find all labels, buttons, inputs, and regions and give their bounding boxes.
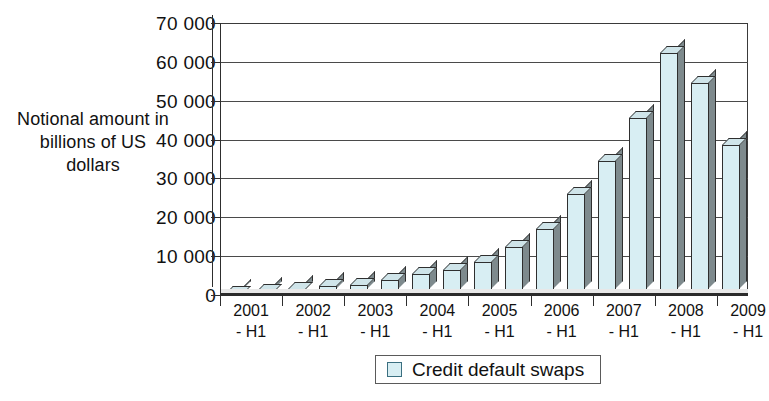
bar-side-face (430, 260, 437, 288)
bar-front-face (598, 161, 616, 295)
bar-side-face (647, 104, 654, 288)
bar-top-face (319, 279, 344, 286)
plot-border-right (747, 23, 748, 295)
x-axis-tick-label: 2002- H1 (278, 300, 348, 342)
bar (722, 145, 740, 295)
x-axis-tick-label-half: - H1 (278, 321, 348, 342)
x-axis-tick-label-year: 2007 (606, 302, 642, 319)
bar (660, 53, 678, 295)
x-axis-tick-label-half: - H1 (713, 321, 769, 342)
x-axis-tick-label: 2005- H1 (465, 300, 535, 342)
x-axis-tick-label: 2003- H1 (340, 300, 410, 342)
bar-chart: Notional amount in billions of US dollar… (0, 0, 769, 401)
x-axis-tick-label-half: - H1 (651, 321, 721, 342)
y-axis-tick (211, 295, 220, 296)
x-axis-tick-label-half: - H1 (402, 321, 472, 342)
y-axis-line (220, 23, 221, 295)
y-axis-tick-label: 70 000 (120, 14, 216, 33)
bar-front-face (536, 229, 554, 295)
bar-front-face (691, 83, 709, 295)
x-axis-tick-label-year: 2003 (357, 302, 393, 319)
bar (629, 118, 647, 295)
x-axis-tick-label-half: - H1 (527, 321, 597, 342)
x-axis-tick-label-year: 2001 (233, 302, 269, 319)
x-axis-tick-label-year: 2002 (295, 302, 331, 319)
legend-label-credit-default-swaps: Credit default swaps (412, 360, 584, 379)
plot-area (220, 23, 748, 295)
x-axis-tick-label-year: 2008 (668, 302, 704, 319)
y-axis-tick-labels: 010 00020 00030 00040 00050 00060 00070 … (120, 0, 216, 401)
x-axis-tick-labels: 2001- H12002- H12003- H12004- H12005- H1… (220, 300, 748, 348)
bar-front-face (722, 145, 740, 295)
x-axis-tick-label-year: 2009 (730, 302, 766, 319)
bar-front-face (567, 194, 585, 295)
x-axis-tick-label: 2006- H1 (527, 300, 597, 342)
y-axis-back-line (212, 15, 213, 287)
bar (691, 83, 709, 295)
x-axis-tick-label: 2001- H1 (216, 300, 286, 342)
bar (567, 194, 585, 295)
y-axis-tick-label: 20 000 (120, 208, 216, 227)
chart-legend: Credit default swaps (375, 355, 601, 384)
plot-border-top (220, 23, 748, 24)
x-axis-tick-label: 2009- H1 (713, 300, 769, 342)
bar-side-face (709, 69, 716, 288)
y-axis-tick-label: 50 000 (120, 92, 216, 111)
y-axis-tick-label: 30 000 (120, 169, 216, 188)
bar (505, 247, 523, 295)
bar-side-face (678, 39, 685, 288)
bar (598, 161, 616, 295)
bar-front-face (629, 118, 647, 295)
bar-top-face (288, 282, 313, 289)
x-axis-line (220, 293, 748, 295)
bar (536, 229, 554, 295)
bar-side-face (585, 180, 592, 288)
x-axis-tick-label-half: - H1 (340, 321, 410, 342)
bar-front-face (505, 247, 523, 295)
x-axis-tick-label: 2007- H1 (589, 300, 659, 342)
x-axis-tick-label-year: 2006 (544, 302, 580, 319)
x-axis-tick-label-half: - H1 (465, 321, 535, 342)
y-axis-tick-label: 10 000 (120, 247, 216, 266)
x-axis-tick-label-half: - H1 (589, 321, 659, 342)
bar-side-face (740, 131, 747, 288)
bar-side-face (616, 147, 623, 288)
x-axis-tick-label: 2004- H1 (402, 300, 472, 342)
x-axis-tick-label-year: 2004 (420, 302, 456, 319)
y-axis-tick-label: 60 000 (120, 53, 216, 72)
y-axis-tick-label: 0 (120, 286, 216, 305)
x-axis-tick-label-year: 2005 (482, 302, 518, 319)
x-axis-tick-label: 2008- H1 (651, 300, 721, 342)
y-axis-tick-label: 40 000 (120, 131, 216, 150)
bar-front-face (660, 53, 678, 295)
x-axis-tick-label-half: - H1 (216, 321, 286, 342)
legend-swatch-credit-default-swaps (387, 362, 402, 377)
bar-side-face (461, 256, 468, 288)
